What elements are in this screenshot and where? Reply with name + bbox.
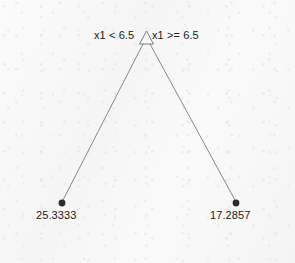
split-condition-label-right: x1 >= 6.5 (152, 30, 199, 41)
decision-tree-figure: x1 < 6.5 x1 >= 6.5 25.3333 17.2857 (0, 0, 295, 263)
split-condition-label-left: x1 < 6.5 (94, 30, 134, 41)
tree-graphics (0, 0, 295, 263)
leaf-value-label-left: 25.3333 (36, 210, 76, 221)
edge-root-to-left-leaf (62, 44, 143, 202)
leaf-node-right-dot[interactable] (233, 200, 240, 207)
leaf-node-left-dot[interactable] (59, 200, 66, 207)
edge-root-to-right-leaf (150, 44, 236, 202)
leaf-value-label-right: 17.2857 (210, 210, 250, 221)
